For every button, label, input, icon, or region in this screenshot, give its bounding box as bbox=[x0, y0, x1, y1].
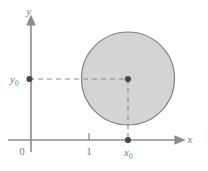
y0-axis-dot bbox=[26, 76, 32, 82]
figure-root: y x 0 1 x0 y0 bbox=[0, 0, 208, 171]
origin-label: 0 bbox=[19, 145, 25, 157]
x0-axis-dot bbox=[125, 137, 131, 143]
y-axis-label: y bbox=[26, 5, 32, 17]
x-tick-label-1: 1 bbox=[86, 145, 92, 157]
x0-subscript: 0 bbox=[129, 152, 133, 161]
x-axis-label: x bbox=[187, 133, 193, 145]
y0-tick-label: y0 bbox=[9, 73, 19, 88]
x0-tick-label: x0 bbox=[123, 146, 133, 161]
coordinate-plane-figure: y x 0 1 x0 y0 bbox=[0, 0, 208, 171]
disk-center-dot bbox=[125, 76, 131, 82]
y0-subscript: 0 bbox=[15, 79, 19, 88]
